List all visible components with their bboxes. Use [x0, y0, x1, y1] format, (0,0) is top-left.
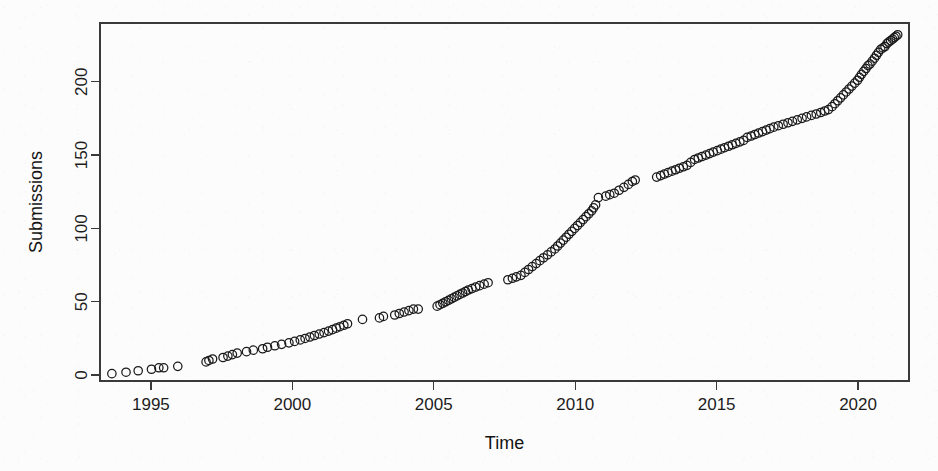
chart-figure: 199520002005201020152020 050100150200 Ti…	[0, 0, 938, 471]
x-tick-label: 2005	[415, 395, 453, 414]
data-point	[358, 315, 366, 323]
data-point	[589, 204, 597, 212]
x-tick-label: 1995	[132, 395, 170, 414]
y-axis-title: Submissions	[26, 151, 46, 253]
data-point	[134, 367, 142, 375]
x-tick-label: 2015	[698, 395, 736, 414]
y-axis: 050100150200	[73, 68, 101, 380]
y-tick-label: 50	[73, 292, 92, 311]
data-points	[108, 31, 902, 378]
data-point	[631, 176, 639, 184]
plot-border	[100, 23, 909, 381]
x-axis-title: Time	[485, 433, 524, 453]
y-tick-label: 200	[73, 68, 92, 96]
y-tick-label: 0	[73, 370, 92, 379]
data-point	[290, 337, 298, 345]
data-point	[233, 349, 241, 357]
y-tick-label: 100	[73, 214, 92, 242]
x-axis: 199520002005201020152020	[132, 381, 877, 414]
data-point	[174, 362, 182, 370]
data-point	[872, 51, 880, 59]
plot-frame	[100, 23, 909, 381]
x-tick-label: 2000	[273, 395, 311, 414]
x-tick-label: 2020	[839, 395, 877, 414]
y-tick-label: 150	[73, 141, 92, 169]
scatter-plot-svg: 199520002005201020152020 050100150200 Ti…	[0, 0, 938, 471]
data-point	[855, 73, 863, 81]
data-point	[122, 368, 130, 376]
x-tick-label: 2010	[556, 395, 594, 414]
data-point	[108, 369, 116, 377]
